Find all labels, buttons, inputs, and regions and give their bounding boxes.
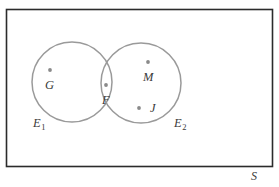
set-label-e2: E2 bbox=[174, 117, 186, 130]
set-label-e1: E1 bbox=[33, 117, 45, 130]
universe-label-s: S bbox=[251, 170, 257, 182]
outcome-dot-m bbox=[146, 60, 150, 64]
outcome-dot-g bbox=[48, 68, 52, 72]
set-label-e2-subscript: 2 bbox=[182, 122, 186, 132]
set-label-e2-text: E bbox=[174, 116, 182, 130]
outcome-label-f: F bbox=[102, 94, 110, 107]
outcome-label-m: M bbox=[143, 71, 153, 84]
venn-diagram-canvas bbox=[0, 0, 279, 187]
outcome-dot-j bbox=[137, 106, 141, 110]
outcome-label-j: J bbox=[150, 102, 156, 115]
set-label-e1-subscript: 1 bbox=[41, 122, 45, 132]
venn-diagram-figure: G F M J E1 E2 S bbox=[0, 0, 279, 187]
outcome-label-g: G bbox=[45, 79, 54, 92]
outcome-dot-f bbox=[104, 83, 108, 87]
set-label-e1-text: E bbox=[33, 116, 41, 130]
